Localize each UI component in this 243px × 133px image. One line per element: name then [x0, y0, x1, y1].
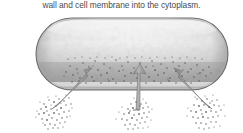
bacterial-cell	[36, 17, 228, 90]
particle-cluster-middle	[115, 97, 152, 129]
cell-top-highlight	[46, 17, 218, 39]
particle-cluster-left	[35, 94, 72, 129]
particle-cluster-right	[186, 94, 225, 129]
biology-figure: wall and cell membrane into the cytoplas…	[0, 0, 243, 133]
cell-illustration	[0, 0, 243, 133]
